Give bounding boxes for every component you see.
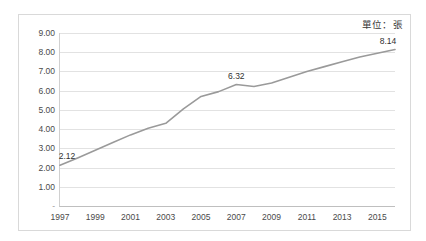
- plot-area: -1.002.003.004.005.006.007.008.009.00 19…: [59, 33, 395, 207]
- x-axis-tick-label: 1997: [51, 212, 70, 222]
- x-axis-tick-label: 2009: [262, 212, 281, 222]
- y-axis-tick-label: 1.00: [38, 182, 55, 192]
- x-axis-tick-label: 2001: [121, 212, 140, 222]
- y-axis-tick-label: 2.00: [38, 163, 55, 173]
- y-axis-tick-label: 7.00: [38, 66, 55, 76]
- x-axis-tick-label: 2015: [368, 212, 387, 222]
- y-axis-tick-label: 4.00: [38, 124, 55, 134]
- x-axis-tick-label: 1999: [86, 212, 105, 222]
- unit-annotation: 單位：張: [362, 17, 403, 31]
- y-axis-tick-label: 8.00: [38, 47, 55, 57]
- chart-card: 單位：張 -1.002.003.004.005.006.007.008.009.…: [18, 14, 411, 231]
- line-series: [60, 33, 395, 206]
- y-axis-tick-label: 5.00: [38, 105, 55, 115]
- x-axis-tick-label: 2007: [227, 212, 246, 222]
- y-axis-tick-label: -: [52, 201, 55, 211]
- x-axis-tick-label: 2011: [298, 212, 316, 222]
- x-axis-tick-label: 2003: [156, 212, 175, 222]
- series-polyline: [60, 50, 395, 166]
- y-axis-tick-label: 6.00: [38, 86, 55, 96]
- y-axis-tick-label: 9.00: [38, 28, 55, 38]
- x-axis-tick-label: 2013: [333, 212, 352, 222]
- x-axis-tick-label: 2005: [192, 212, 211, 222]
- y-axis-tick-label: 3.00: [38, 143, 55, 153]
